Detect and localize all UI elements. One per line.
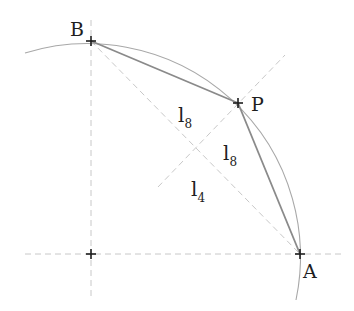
segment-label-l8-lower: l8 (223, 141, 237, 169)
geometry-diagram: B P A l8 l8 l4 (0, 0, 354, 311)
point-label-p: P (251, 93, 264, 115)
point-label-a: A (302, 260, 317, 282)
chord-bp (91, 41, 238, 103)
point-marker-o (86, 249, 96, 259)
segment-label-l8-upper: l8 (178, 103, 192, 131)
point-label-b: B (70, 18, 84, 40)
chord-pa (238, 103, 300, 254)
segment-label-l4: l4 (191, 177, 205, 205)
